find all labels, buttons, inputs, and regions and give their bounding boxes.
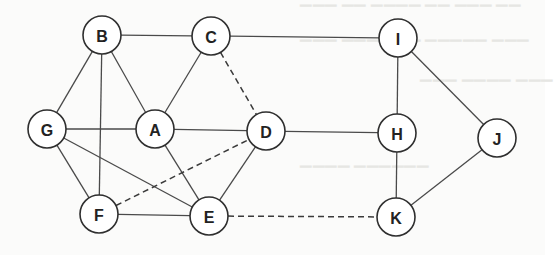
edge-g-e <box>64 138 193 207</box>
node-k: K <box>377 198 415 236</box>
node-layer: BCIGADHJFEK <box>28 16 516 236</box>
edge-b-f <box>99 54 101 195</box>
node-label: K <box>390 210 402 227</box>
node-f: F <box>80 195 118 233</box>
edge-c-i <box>230 36 379 38</box>
edge-c-a <box>165 52 201 112</box>
edge-j-k <box>411 150 482 206</box>
edge-f-d <box>116 139 249 205</box>
edge-g-f <box>57 145 89 198</box>
edge-i-j <box>411 52 483 125</box>
node-d: D <box>247 112 285 150</box>
node-label: A <box>149 122 161 139</box>
edge-e-k <box>228 216 377 217</box>
node-label: B <box>96 28 108 45</box>
node-label: I <box>396 31 400 48</box>
node-label: D <box>260 124 272 141</box>
node-label: G <box>41 122 53 139</box>
edge-i-h <box>397 57 398 114</box>
node-label: C <box>205 29 217 46</box>
edge-b-c <box>121 35 192 36</box>
edge-d-e <box>220 147 256 200</box>
node-a: A <box>136 110 174 148</box>
node-e: E <box>190 197 228 235</box>
edge-h-k <box>396 152 397 198</box>
node-label: F <box>94 207 104 224</box>
node-j: J <box>478 119 516 157</box>
edge-f-e <box>118 214 190 215</box>
node-g: G <box>28 110 66 148</box>
edge-c-d <box>221 52 257 114</box>
edge-b-a <box>111 52 145 113</box>
node-i: I <box>379 19 417 57</box>
node-h: H <box>378 114 416 152</box>
node-label: J <box>493 131 502 148</box>
node-c: C <box>192 17 230 55</box>
edge-b-g <box>57 51 93 112</box>
edge-a-d <box>174 129 247 130</box>
node-b: B <box>83 16 121 54</box>
edge-d-h <box>285 131 378 132</box>
node-label: E <box>204 209 215 226</box>
node-label: H <box>391 126 403 143</box>
